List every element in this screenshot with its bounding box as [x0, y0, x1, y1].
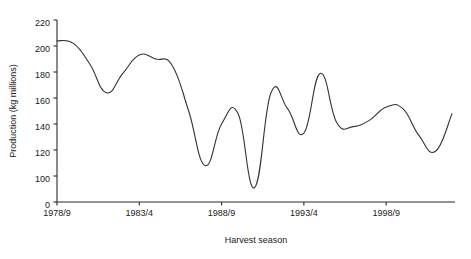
- y-axis-title: Production (kg millions): [8, 64, 18, 158]
- x-tick-label-1978/9: 1978/9: [43, 208, 71, 218]
- y-tick-label-180: 180: [35, 70, 50, 80]
- chart-figure: 0100120140160180200220 1978/91983/41988/…: [0, 0, 471, 259]
- y-tick-label-140: 140: [35, 122, 50, 132]
- y-tick-label-120: 120: [35, 148, 50, 158]
- y-tick-label-160: 160: [35, 96, 50, 106]
- production-line-chart: 0100120140160180200220 1978/91983/41988/…: [0, 0, 471, 259]
- x-tick-label-1988/9: 1988/9: [208, 208, 236, 218]
- y-tick-label-100: 100: [35, 174, 50, 184]
- x-tick-label-1993/4: 1993/4: [290, 208, 318, 218]
- x-tick-label-1998/9: 1998/9: [372, 208, 400, 218]
- chart-background: [0, 0, 471, 259]
- y-tick-label-220: 220: [35, 18, 50, 28]
- y-tick-label-200: 200: [35, 44, 50, 54]
- x-tick-label-1983/4: 1983/4: [126, 208, 154, 218]
- x-axis-title: Harvest season: [225, 235, 288, 245]
